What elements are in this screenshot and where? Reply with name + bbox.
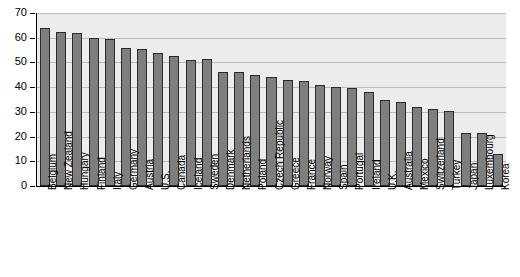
x-tick-label-text: Belgium (48, 154, 58, 190)
x-tick-label: Ireland (372, 159, 382, 190)
x-axis: BelgiumNew ZealandHungaryFinlandItalyGer… (36, 188, 505, 277)
x-tick-label: Greece (291, 157, 301, 190)
x-tick-label: Luxembourg (485, 134, 495, 190)
y-tick-mark (30, 137, 35, 138)
x-tick-label: Mexico (420, 158, 430, 190)
x-tick-label: Canada (177, 155, 187, 190)
x-tick-label: Switzerland (436, 138, 446, 190)
x-tick-label: Czech Republic (275, 120, 285, 190)
y-tick-label: 30 (15, 106, 27, 117)
x-tick-label: Spain (339, 164, 349, 190)
x-tick-label-text: Czech Republic (275, 120, 285, 190)
y-tick-mark (30, 87, 35, 88)
x-tick-label-text: Turkey (452, 160, 462, 190)
x-tick-label: Turkey (452, 160, 462, 190)
x-tick-label-text: Sweden (210, 154, 220, 190)
x-tick-label-text: U.K. (388, 171, 398, 190)
x-tick-label: Australia (404, 151, 414, 190)
x-tick-label-text: Italy (113, 172, 123, 190)
x-tick-label: Korea (501, 163, 511, 190)
x-tick-label-text: Netherlands (242, 136, 252, 190)
y-tick-label: 0 (21, 180, 27, 191)
x-tick-label: Sweden (210, 154, 220, 190)
x-tick-label: Iceland (194, 158, 204, 190)
x-tick-label-text: Norway (323, 156, 333, 190)
x-tick-label: Japan (469, 163, 479, 190)
x-tick-label-text: Austria (145, 159, 155, 190)
x-tick-label: France (307, 159, 317, 190)
y-tick-mark (30, 186, 35, 187)
x-tick-label: Denmark (226, 149, 236, 190)
x-tick-label: Hungary (80, 152, 90, 190)
x-tick-label: Germany (129, 149, 139, 190)
y-tick-mark (30, 112, 35, 113)
x-tick-label-text: Finland (97, 157, 107, 190)
x-tick-label-text: U.S. (161, 171, 171, 190)
y-axis: 010203040506070 (0, 0, 32, 190)
y-tick-mark (30, 161, 35, 162)
x-tick-label-text: France (307, 159, 317, 190)
x-tick-label: Poland (258, 159, 268, 190)
x-tick-label-text: Ireland (372, 159, 382, 190)
x-tick-label-text: Canada (177, 155, 187, 190)
x-tick-label: Austria (145, 159, 155, 190)
x-tick-label-text: Japan (469, 163, 479, 190)
x-tick-label-text: New Zealand (64, 131, 74, 190)
y-tick-label: 70 (15, 7, 27, 18)
x-tick-label-text: Luxembourg (485, 134, 495, 190)
x-tick-label: Belgium (48, 154, 58, 190)
x-tick-label: U.S. (161, 171, 171, 190)
x-tick-label-text: Korea (501, 163, 511, 190)
y-tick-label: 10 (15, 155, 27, 166)
x-tick-label-text: Hungary (80, 152, 90, 190)
bar-chart: 010203040506070 BelgiumNew ZealandHungar… (0, 0, 520, 277)
x-tick-label-text: Spain (339, 164, 349, 190)
x-tick-label: Portugal (355, 153, 365, 190)
x-tick-label-text: Iceland (194, 158, 204, 190)
x-tick-label-text: Portugal (355, 153, 365, 190)
x-tick-label-text: Germany (129, 149, 139, 190)
y-tick-mark (30, 13, 35, 14)
x-tick-label-text: Switzerland (436, 138, 446, 190)
x-tick-label: Italy (113, 172, 123, 190)
x-tick-label: Finland (97, 157, 107, 190)
x-tick-label-text: Mexico (420, 158, 430, 190)
x-tick-label: New Zealand (64, 131, 74, 190)
x-tick-label: U.K. (388, 171, 398, 190)
y-tick-label: 40 (15, 81, 27, 92)
x-tick-label-text: Denmark (226, 149, 236, 190)
x-tick-label-text: Greece (291, 157, 301, 190)
x-tick-label: Netherlands (242, 136, 252, 190)
x-tick-label-text: Australia (404, 151, 414, 190)
x-tick-label-text: Poland (258, 159, 268, 190)
y-tick-label: 50 (15, 56, 27, 67)
y-tick-label: 60 (15, 32, 27, 43)
y-tick-label: 20 (15, 131, 27, 142)
y-tick-mark (30, 62, 35, 63)
y-tick-mark (30, 38, 35, 39)
x-tick-label: Norway (323, 156, 333, 190)
